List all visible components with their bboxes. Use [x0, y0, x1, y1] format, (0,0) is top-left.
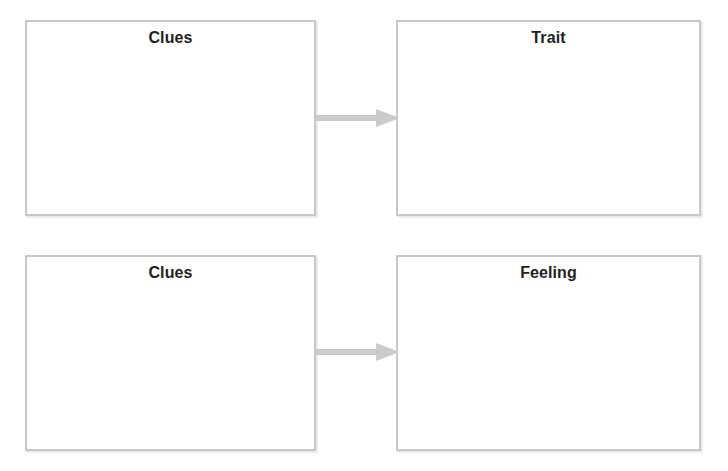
feeling-box-label: Feeling [398, 263, 699, 283]
clues-box-label: Clues [27, 263, 314, 283]
clues-box-trait-row[interactable]: Clues [25, 20, 316, 216]
clues-box-feeling-row[interactable]: Clues [25, 255, 316, 451]
clues-box-writing-area[interactable] [27, 289, 314, 449]
feeling-box-writing-area[interactable] [398, 289, 699, 449]
arrow-right-icon-trait-row [316, 107, 400, 129]
clues-box-label: Clues [27, 28, 314, 48]
arrow-right-icon-feeling-row [316, 341, 400, 363]
inference-graphic-organizer: Clues Trait Clues Feeling [0, 0, 728, 471]
trait-box[interactable]: Trait [396, 20, 701, 216]
feeling-box[interactable]: Feeling [396, 255, 701, 451]
trait-box-label: Trait [398, 28, 699, 48]
trait-box-writing-area[interactable] [398, 54, 699, 214]
clues-box-writing-area[interactable] [27, 54, 314, 214]
